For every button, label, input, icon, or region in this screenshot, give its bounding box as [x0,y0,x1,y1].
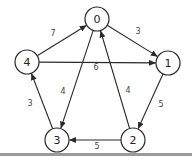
edge-weight-0-to-1: 3 [135,27,140,36]
edge-weight-4-to-1: 6 [93,63,98,72]
graph-node-4: 4 [15,50,39,74]
edge-weight-2-to-0: 4 [125,86,130,95]
nodes-layer: 01234 [15,7,180,152]
graph-canvas: 73644553 01234 [0,0,192,161]
node-label: 0 [94,13,101,26]
node-label: 2 [130,134,137,147]
edge-0-to-3 [61,30,93,128]
edge-3-to-4 [32,74,53,129]
graph-node-3: 3 [45,128,69,152]
footer-separator-bar [0,153,192,156]
edge-weight-3-to-4: 3 [27,99,32,108]
edge-weight-0-to-3: 4 [60,87,65,96]
edge-weight-2-to-3: 5 [94,142,99,151]
edge-2-to-0 [101,31,130,129]
graph-node-2: 2 [121,128,145,152]
graph-node-1: 1 [156,51,180,75]
edges-layer [32,25,164,140]
edge-weight-1-to-2: 5 [158,100,163,109]
node-label: 3 [54,134,61,147]
edge-0-to-1 [107,25,157,56]
node-label: 1 [165,57,172,70]
edge-weight-4-to-0: 7 [50,29,55,38]
node-label: 4 [24,56,31,69]
edge-4-to-0 [37,26,86,56]
graph-node-0: 0 [85,7,109,31]
